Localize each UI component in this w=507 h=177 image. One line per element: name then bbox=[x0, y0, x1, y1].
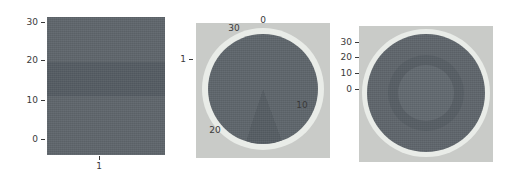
figure-canvas: 30 20 10 0 1 1 0 30 10 20 bbox=[0, 0, 507, 177]
polar-radial-inner-disc bbox=[398, 65, 454, 121]
polar-angular-theta-label-10: 10 bbox=[292, 101, 312, 110]
image-plot-ytick-mark-10 bbox=[41, 100, 45, 101]
image-plot-ytick-label-20: 20 bbox=[20, 56, 38, 65]
image-plot-xtick-mark-1 bbox=[99, 156, 100, 160]
polar-radial-rtick-label-30: 30 bbox=[332, 38, 352, 47]
image-plot-axes[interactable] bbox=[47, 17, 165, 155]
polar-radial-rtick-label-10: 10 bbox=[332, 69, 352, 78]
image-plot-ytick-label-0: 0 bbox=[20, 135, 38, 144]
image-plot-xtick-label-1: 1 bbox=[90, 162, 108, 171]
image-plot-ytick-label-10: 10 bbox=[20, 96, 38, 105]
image-plot-ytick-mark-30 bbox=[41, 22, 45, 23]
polar-radial-rtick-label-0: 0 bbox=[332, 85, 352, 94]
polar-angular-theta-label-20: 20 bbox=[205, 126, 225, 135]
image-plot-ytick-mark-20 bbox=[41, 60, 45, 61]
polar-angular-rtick-mark-1 bbox=[189, 59, 193, 60]
polar-radial-rtick-mark-0 bbox=[355, 89, 359, 90]
polar-radial-rtick-mark-30 bbox=[355, 42, 359, 43]
image-plot-ytick-mark-0 bbox=[41, 139, 45, 140]
image-plot-ytick-label-30: 30 bbox=[20, 18, 38, 27]
rectangular-image-plot-panel[interactable]: 30 20 10 0 1 bbox=[0, 0, 172, 177]
polar-radial-rtick-mark-20 bbox=[355, 57, 359, 58]
polar-angular-theta-label-30: 30 bbox=[224, 24, 244, 33]
polar-plot-radial-panel[interactable]: 30 20 10 0 bbox=[338, 0, 507, 177]
polar-plot-angular-panel[interactable]: 1 0 30 10 20 bbox=[172, 0, 338, 177]
polar-angular-theta-label-0: 0 bbox=[256, 16, 270, 25]
polar-radial-rtick-mark-10 bbox=[355, 73, 359, 74]
polar-angular-rtick-label-1: 1 bbox=[168, 55, 186, 64]
polar-radial-rtick-label-20: 20 bbox=[332, 53, 352, 62]
image-raster-dark-band bbox=[47, 62, 165, 96]
